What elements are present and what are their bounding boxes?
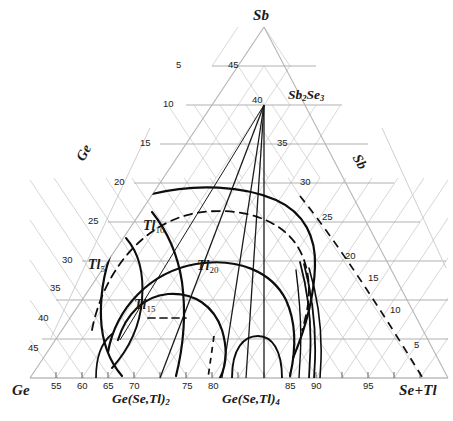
tick-left-45: 45	[28, 343, 39, 353]
tick-bottom-75: 75	[182, 381, 193, 391]
tick-right-45: 45	[228, 60, 239, 70]
tick-right-20: 20	[345, 251, 356, 261]
tick-left-10: 10	[163, 99, 174, 109]
curve-right-4	[296, 270, 301, 378]
tick-bottom-85: 85	[285, 381, 296, 391]
apex-label-bottom-left: Ge	[12, 383, 30, 398]
tick-bottom-55: 55	[51, 381, 62, 391]
tick-right-15: 15	[368, 273, 379, 283]
ternary-diagram-figure: Sb Ge Se+Tl Ge Sb Sb2Se3 Ge(Se,Tl)2 Ge(S…	[0, 0, 453, 421]
apex-label-bottom-right: Se+Tl	[399, 383, 437, 398]
tick-bottom-60: 60	[77, 381, 88, 391]
tick-right-5: 5	[414, 340, 419, 350]
tick-bottom-80: 80	[208, 381, 219, 391]
tick-right-10: 10	[390, 305, 401, 315]
isopleth-curves	[63, 187, 321, 378]
isopleth-label-tl20: Tl20	[197, 259, 218, 273]
compound-label-gesetl2: Ge(Se,Tl)2	[112, 392, 170, 406]
grid-horizontal	[42, 66, 448, 339]
tick-bottom-70: 70	[129, 381, 140, 391]
tick-left-40: 40	[38, 313, 49, 323]
tick-left-35: 35	[50, 283, 61, 293]
tick-left-5: 5	[176, 60, 181, 70]
tick-bottom-95: 95	[363, 381, 374, 391]
triangle-right-edge	[264, 27, 448, 378]
isopleth-label-tl15: Tl15	[134, 298, 155, 312]
dashed-vertical-stub	[208, 336, 214, 378]
tick-marks	[56, 372, 420, 378]
apex-label-top: Sb	[253, 8, 269, 23]
tick-bottom-65: 65	[103, 381, 114, 391]
diagram-canvas	[0, 0, 453, 421]
triangle-left-edge	[30, 27, 264, 378]
compound-label-gesetl4: Ge(Se,Tl)4	[222, 392, 280, 406]
tick-bottom-90: 90	[311, 381, 322, 391]
tick-left-20: 20	[114, 177, 125, 187]
isopleth-label-tl10: Tl10	[143, 219, 164, 233]
tick-apex-40: 40	[252, 95, 263, 105]
tick-right-35: 35	[277, 138, 288, 148]
curve-small-dome	[232, 336, 282, 378]
tick-left-15: 15	[140, 138, 151, 148]
tick-left-30: 30	[62, 255, 73, 265]
isopleth-label-tl5: Tl5	[88, 258, 105, 272]
tick-right-25: 25	[322, 212, 333, 222]
compound-label-sb2se3: Sb2Se3	[288, 88, 324, 102]
tick-left-25: 25	[88, 216, 99, 226]
tick-right-30: 30	[300, 177, 311, 187]
